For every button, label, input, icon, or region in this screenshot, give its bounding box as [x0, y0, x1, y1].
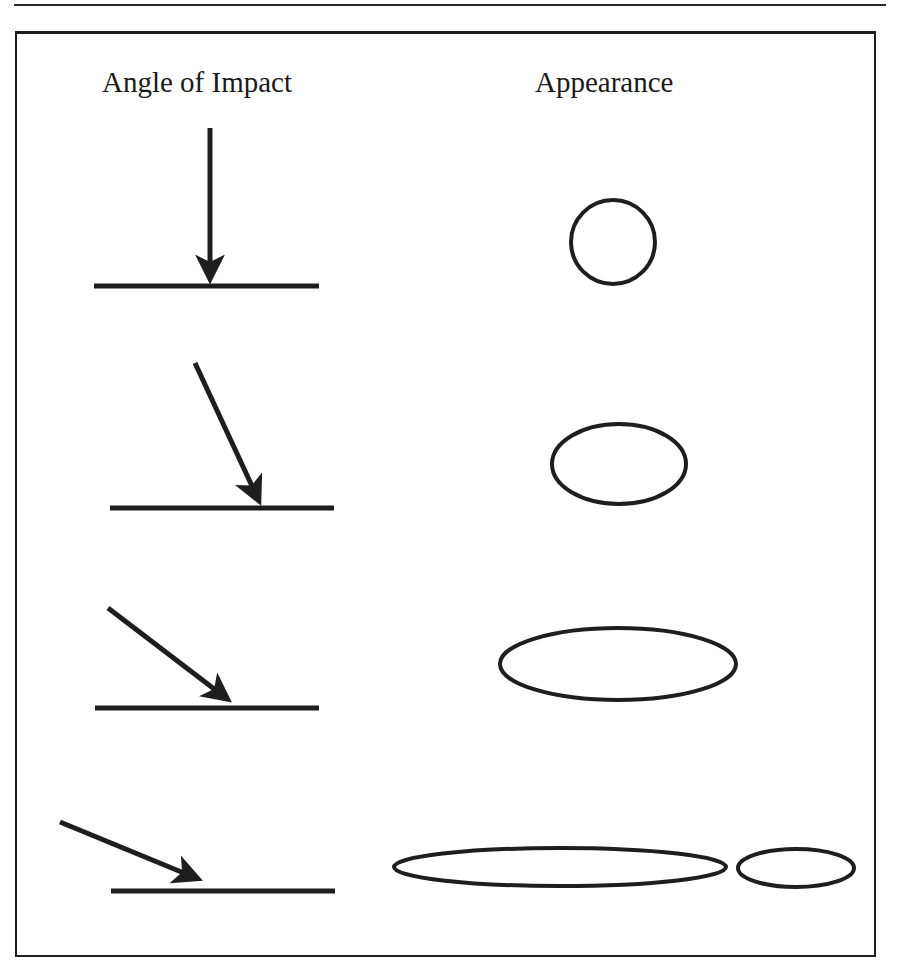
stain-circle	[571, 200, 655, 284]
stain-ellipse	[500, 628, 736, 700]
stain-ellipse	[552, 424, 686, 504]
stain-ellipse	[394, 848, 726, 886]
impact-arrow-icon	[60, 822, 196, 878]
stain-ellipse	[738, 849, 854, 887]
impact-row-2	[110, 363, 686, 508]
impact-arrow-icon	[195, 363, 258, 499]
impact-row-4	[60, 822, 854, 891]
impact-arrow-icon	[108, 608, 226, 698]
impact-row-1	[94, 128, 655, 286]
impact-diagram	[0, 0, 902, 979]
impact-row-3	[95, 608, 736, 708]
